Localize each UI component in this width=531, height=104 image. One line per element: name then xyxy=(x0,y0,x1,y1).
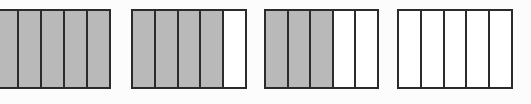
fraction-bar-1-cell-5 xyxy=(88,11,109,87)
fraction-bar-3-cell-5 xyxy=(356,11,377,87)
fraction-bar-4-cell-4 xyxy=(467,11,490,87)
fraction-bar-3-cell-3 xyxy=(311,11,334,87)
fraction-bar-3-cell-2 xyxy=(289,11,312,87)
fraction-bar-2 xyxy=(131,9,247,89)
fraction-bar-1-cell-3 xyxy=(42,11,65,87)
fraction-bar-2-cell-3 xyxy=(179,11,202,87)
fraction-bar-4-cell-5 xyxy=(490,11,511,87)
fraction-bar-3 xyxy=(264,9,379,89)
fraction-bar-4-cell-1 xyxy=(399,11,422,87)
fraction-bar-1-cell-2 xyxy=(19,11,42,87)
fraction-bar-1 xyxy=(0,9,111,89)
fraction-bar-1-cell-4 xyxy=(65,11,88,87)
fraction-bar-4-cell-3 xyxy=(445,11,468,87)
fraction-bar-4 xyxy=(397,9,513,89)
fraction-bar-4-cell-2 xyxy=(422,11,445,87)
fraction-bar-2-cell-1 xyxy=(133,11,156,87)
fraction-bar-2-cell-5 xyxy=(224,11,245,87)
fraction-bar-2-cell-2 xyxy=(156,11,179,87)
fraction-bars-figure xyxy=(0,0,531,104)
fraction-bar-3-cell-1 xyxy=(266,11,289,87)
fraction-bar-1-cell-1 xyxy=(0,11,19,87)
fraction-bar-3-cell-4 xyxy=(334,11,357,87)
fraction-bar-2-cell-4 xyxy=(201,11,224,87)
